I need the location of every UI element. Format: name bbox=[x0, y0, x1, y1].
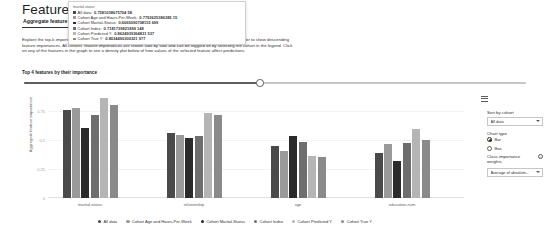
chart-menu-icon[interactable] bbox=[481, 96, 488, 102]
legend-color-dot bbox=[126, 220, 129, 223]
slider-thumb[interactable] bbox=[256, 79, 264, 87]
legend-color-dot bbox=[201, 220, 204, 223]
legend-item[interactable]: All data bbox=[98, 219, 117, 224]
chart-type-label: Chart type bbox=[487, 131, 543, 136]
sort-by-cohort-value: All data bbox=[491, 119, 504, 124]
bar[interactable] bbox=[375, 153, 383, 198]
legend-color-dot bbox=[254, 220, 257, 223]
chart-tooltip: marital-status All data:0.7581038675704 … bbox=[68, 1, 246, 45]
legend-item[interactable]: Cohort Marital-Status bbox=[201, 219, 245, 224]
tooltip-rows: All data:0.7581038675704 58Cohort Age an… bbox=[73, 10, 241, 42]
series-color-swatch bbox=[73, 38, 76, 41]
x-axis-tick-label: relationship bbox=[184, 202, 204, 207]
bar[interactable] bbox=[176, 135, 184, 198]
top-k-slider-label: Top 4 features by their importance bbox=[22, 70, 97, 75]
top-k-slider[interactable] bbox=[24, 79, 526, 89]
chart-type-bar-label: Bar bbox=[495, 137, 501, 142]
bar[interactable] bbox=[318, 157, 326, 198]
chart-type-option-box[interactable]: Box bbox=[487, 146, 543, 151]
radio-box-icon bbox=[487, 146, 492, 151]
legend-item[interactable]: Cohort True Y bbox=[341, 219, 372, 224]
chart-legend: All dataCohort Age and Hours-Per-WeekCoh… bbox=[0, 219, 470, 224]
class-weights-label: Class importance weights bbox=[487, 154, 529, 164]
series-color-swatch bbox=[73, 32, 76, 35]
sort-by-cohort-dropdown[interactable]: All data bbox=[487, 117, 543, 126]
bar[interactable] bbox=[72, 108, 80, 198]
bar[interactable] bbox=[271, 146, 279, 198]
bar[interactable] bbox=[280, 151, 288, 198]
bar[interactable] bbox=[185, 138, 193, 198]
class-weights-dropdown[interactable]: Average of absolute... bbox=[487, 168, 543, 177]
chevron-down-icon bbox=[536, 171, 540, 173]
bar[interactable] bbox=[393, 161, 401, 198]
bar[interactable] bbox=[195, 136, 203, 199]
bar[interactable] bbox=[412, 129, 420, 198]
bar[interactable] bbox=[289, 136, 297, 198]
bar[interactable] bbox=[214, 115, 222, 198]
bar[interactable] bbox=[299, 142, 307, 198]
bar[interactable] bbox=[308, 156, 316, 198]
bar-group[interactable]: marital-status bbox=[63, 94, 118, 198]
bar[interactable] bbox=[384, 144, 392, 198]
y-axis-tick: 0 bbox=[43, 196, 45, 201]
feature-importances-panel: Feature importances Aggregate feature im… bbox=[0, 0, 550, 236]
radio-bar-icon bbox=[487, 137, 492, 142]
legend-label: Cohort Age and Hours-Per-Week bbox=[132, 219, 192, 224]
series-color-swatch bbox=[73, 11, 76, 14]
bar[interactable] bbox=[422, 140, 430, 198]
legend-label: Cohort Predicted Y bbox=[298, 219, 333, 224]
y-axis-title: Aggregate feature importance bbox=[28, 87, 33, 163]
bar-group[interactable]: age bbox=[271, 94, 326, 198]
y-axis-tick: 0.5 bbox=[39, 138, 45, 143]
tooltip-series-name: Cohort True Y: bbox=[78, 36, 104, 41]
chevron-down-icon bbox=[536, 120, 540, 122]
x-axis-tick-label: education-num bbox=[389, 202, 415, 207]
legend-item[interactable]: Cohort Predicted Y bbox=[292, 219, 332, 224]
bar[interactable] bbox=[110, 105, 118, 198]
bar[interactable] bbox=[204, 113, 212, 198]
legend-color-dot bbox=[292, 220, 295, 223]
y-axis-tick: 0.75 bbox=[37, 109, 45, 114]
series-color-swatch bbox=[73, 16, 76, 19]
series-color-swatch bbox=[73, 22, 76, 25]
tooltip-series-value: 0.8034490300321 977 bbox=[105, 36, 145, 41]
legend-label: Cohort Index bbox=[260, 219, 283, 224]
legend-item[interactable]: Cohort Index bbox=[254, 219, 283, 224]
legend-color-dot bbox=[98, 220, 101, 223]
legend-label: Cohort Marital-Status bbox=[206, 219, 245, 224]
chart-type-box-label: Box bbox=[495, 146, 502, 151]
bar[interactable] bbox=[167, 133, 175, 198]
plot-area[interactable]: 00.250.50.75marital-statusrelationshipag… bbox=[48, 94, 464, 198]
bar[interactable] bbox=[63, 110, 71, 198]
x-axis-tick-label: age bbox=[295, 202, 302, 207]
legend-label: Cohort True Y bbox=[347, 219, 372, 224]
class-weights-value: Average of absolute... bbox=[491, 170, 530, 175]
bar[interactable] bbox=[91, 115, 99, 198]
legend-label: All data bbox=[103, 219, 117, 224]
tooltip-row: Cohort True Y:0.8034490300321 977 bbox=[73, 36, 241, 41]
y-axis-tick: 0.25 bbox=[37, 167, 45, 172]
chart-options-sidebar: Sort by cohort All data Chart type Bar B… bbox=[487, 110, 543, 182]
x-axis-tick-label: marital-status bbox=[78, 202, 102, 207]
info-icon[interactable]: i bbox=[538, 154, 543, 159]
tooltip-header: marital-status bbox=[73, 5, 241, 9]
class-weights-header: Class importance weights i bbox=[487, 154, 543, 166]
bar-group[interactable]: education-num bbox=[375, 94, 430, 198]
chart-type-option-bar[interactable]: Bar bbox=[487, 137, 543, 142]
sort-by-cohort-label: Sort by cohort bbox=[487, 110, 543, 115]
bar[interactable] bbox=[100, 98, 108, 198]
feature-importance-chart: Aggregate feature importance 00.250.50.7… bbox=[18, 92, 468, 214]
bar[interactable] bbox=[403, 143, 411, 198]
slider-fill bbox=[24, 82, 260, 84]
series-color-swatch bbox=[73, 27, 76, 30]
bar[interactable] bbox=[81, 128, 89, 198]
legend-item[interactable]: Cohort Age and Hours-Per-Week bbox=[126, 219, 192, 224]
bar-group[interactable]: relationship bbox=[167, 94, 222, 198]
legend-color-dot bbox=[341, 220, 344, 223]
